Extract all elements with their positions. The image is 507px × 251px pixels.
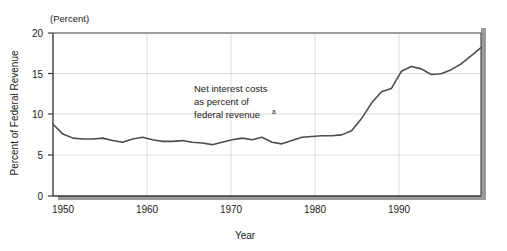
y-tick-marks [48, 33, 53, 196]
x-tick-label-1990: 1990 [388, 204, 411, 215]
x-axis-title: Year [235, 230, 256, 241]
x-tick-label-1980: 1980 [304, 204, 327, 215]
annotation-line-2: as percent of [194, 96, 249, 107]
y-tick-label-5: 5 [37, 150, 43, 161]
x-tick-label-1970: 1970 [220, 204, 243, 215]
net-interest-costs-line-chart: 20 15 10 5 0 1950 1960 1970 1980 1990 Ye… [0, 0, 507, 251]
chart-figure: 20 15 10 5 0 1950 1960 1970 1980 1990 Ye… [0, 0, 507, 251]
y-tick-label-10: 10 [32, 109, 44, 120]
y-tick-label-0: 0 [37, 191, 43, 202]
y-tick-label-15: 15 [32, 69, 44, 80]
plot-background [53, 25, 481, 196]
unit-label: (Percent) [50, 13, 89, 24]
annotation-line-3: federal revenue [194, 109, 260, 120]
x-tick-label-1960: 1960 [136, 204, 159, 215]
annotation-line-1: Net interest costs [194, 83, 268, 94]
x-tick-label-1950: 1950 [52, 204, 75, 215]
y-tick-label-20: 20 [32, 28, 44, 39]
y-axis-title: Percent of Federal Revenue [9, 50, 20, 176]
annotation-footnote-marker: a [272, 108, 276, 115]
